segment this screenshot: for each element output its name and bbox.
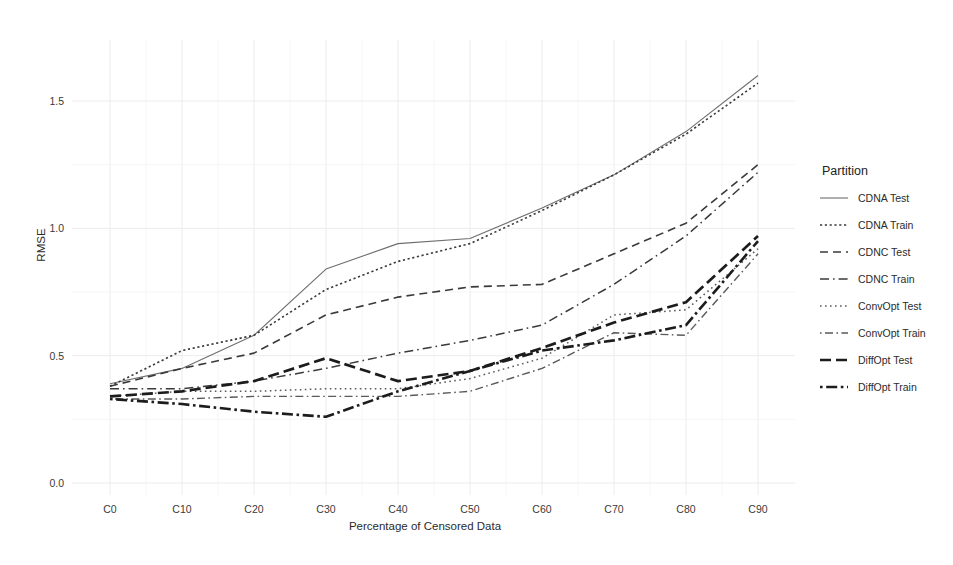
legend-title: Partition (822, 164, 868, 178)
y-tick-label: 0.0 (49, 477, 64, 489)
chart-background (0, 0, 953, 565)
y-tick-label: 1.5 (49, 95, 64, 107)
legend-label-convopt-train: ConvOpt Train (858, 327, 926, 339)
x-tick-label: C60 (532, 503, 551, 515)
legend-label-diffopt-test: DiffOpt Test (858, 354, 913, 366)
rmse-line-chart: 0.00.51.01.5 C0C10C20C30C40C50C60C70C80C… (0, 0, 953, 565)
x-tick-label: C70 (604, 503, 623, 515)
legend-label-cdnc-train: CDNC Train (858, 273, 915, 285)
x-tick-label: C30 (316, 503, 335, 515)
legend-label-convopt-test: ConvOpt Test (858, 300, 922, 312)
x-tick-label: C40 (388, 503, 407, 515)
x-tick-label: C50 (460, 503, 479, 515)
x-tick-label: C80 (676, 503, 695, 515)
y-axis-title: RMSE (35, 228, 47, 262)
x-tick-label: C10 (172, 503, 191, 515)
x-tick-label: C0 (103, 503, 117, 515)
legend-label-cdnc-test: CDNC Test (858, 246, 910, 258)
y-tick-label: 0.5 (49, 350, 64, 362)
x-tick-label: C20 (244, 503, 263, 515)
x-axis-title: Percentage of Censored Data (349, 520, 502, 532)
legend-label-cdna-test: CDNA Test (858, 192, 909, 204)
legend-label-cdna-train: CDNA Train (858, 219, 914, 231)
legend-label-diffopt-train: DiffOpt Train (858, 381, 917, 393)
chart-figure: 0.00.51.01.5 C0C10C20C30C40C50C60C70C80C… (0, 0, 953, 565)
y-tick-label: 1.0 (49, 222, 64, 234)
x-tick-label: C90 (748, 503, 767, 515)
